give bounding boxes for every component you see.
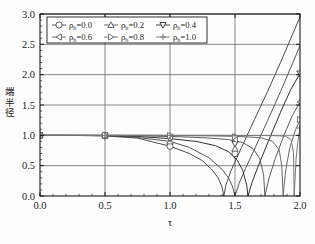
y-axis-title-char: 半 — [5, 97, 15, 108]
y-tick-label: 2.0 — [22, 69, 35, 80]
legend-label: ρb=1.0 — [173, 32, 196, 43]
legend-label: ρb=0.4 — [173, 20, 197, 31]
chart-legend: ρb=0.0ρb=0.2ρb=0.4ρb=0.6ρb=0.8ρb=1.0 — [47, 17, 207, 43]
y-tick-label: 3.0 — [22, 9, 35, 20]
y-axis-title: 端半径 — [5, 86, 15, 118]
legend-marker-circle — [56, 22, 62, 28]
legend-label: ρb=0.6 — [69, 32, 93, 43]
legend-label: ρb=0.2 — [121, 20, 144, 31]
x-tick-label: 2.0 — [293, 200, 306, 211]
x-tick-label: 0.5 — [98, 200, 111, 211]
y-axis-title-char: 径 — [5, 107, 15, 118]
y-axis-title-char: 端 — [5, 86, 15, 97]
y-tick-label: 0.0 — [22, 191, 35, 202]
x-axis-title: τ — [168, 216, 173, 228]
y-tick-label: 1.0 — [22, 130, 35, 141]
x-tick-label: 0.0 — [33, 200, 46, 211]
legend-label: ρb=0.0 — [69, 20, 92, 31]
chart-svg: 0.00.51.01.52.0 0.00.51.01.52.02.53.0 τ … — [0, 0, 315, 244]
x-tick-label: 1.0 — [163, 200, 176, 211]
y-tick-label: 1.5 — [22, 100, 35, 111]
legend-label: ρb=0.8 — [121, 32, 144, 43]
y-tick-label: 2.5 — [22, 39, 35, 50]
chart-figure: 0.00.51.01.52.0 0.00.51.01.52.02.53.0 τ … — [0, 0, 315, 244]
x-tick-label: 1.5 — [228, 200, 241, 211]
y-tick-label: 0.5 — [22, 160, 35, 171]
plot-container: 0.00.51.01.52.0 0.00.51.01.52.02.53.0 τ … — [0, 0, 315, 244]
